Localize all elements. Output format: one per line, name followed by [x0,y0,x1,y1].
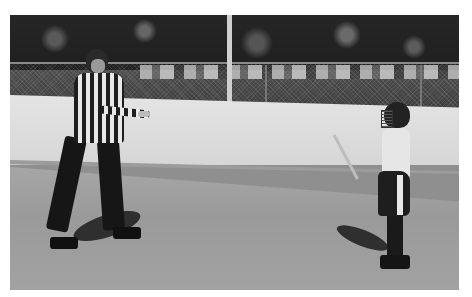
player-face-cage [381,110,393,128]
fence-post [420,65,422,110]
player-pants [378,171,410,216]
rink-photo [10,15,459,290]
referee-skate [50,237,78,249]
player-skates [380,255,410,269]
clipped-caption-remnant [20,0,450,8]
referee-hand [138,111,150,117]
light-pole [227,15,232,105]
player-pants-stripe [397,175,403,215]
referee-face [91,59,105,73]
referee-skate [113,227,141,239]
player-legs [387,213,403,258]
